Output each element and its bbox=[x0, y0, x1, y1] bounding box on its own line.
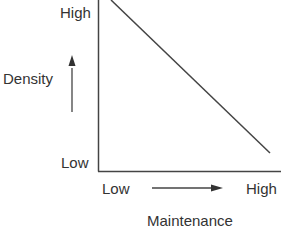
y-axis-title: Density bbox=[3, 71, 53, 86]
x-low-label: Low bbox=[102, 181, 130, 196]
density-maintenance-diagram bbox=[0, 0, 281, 233]
trend-line bbox=[111, 0, 270, 153]
x-axis-title: Maintenance bbox=[147, 213, 233, 228]
y-low-label: Low bbox=[61, 155, 89, 170]
right-arrow-icon bbox=[152, 185, 223, 192]
up-arrow-icon bbox=[69, 55, 76, 112]
x-high-label: High bbox=[246, 181, 277, 196]
y-high-label: High bbox=[60, 5, 91, 20]
